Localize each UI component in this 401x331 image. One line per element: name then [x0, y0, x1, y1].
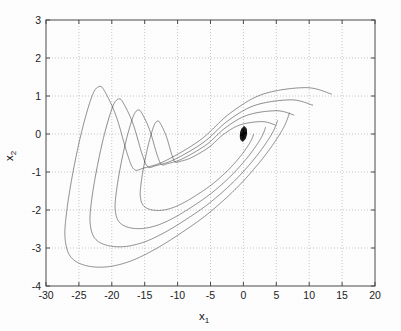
y-axis-label-subscript: 2 — [9, 150, 18, 155]
svg-text:x2: x2 — [3, 150, 18, 161]
x-tick-label: -5 — [206, 289, 215, 301]
x-tick-label: -10 — [170, 289, 185, 301]
x-tick-label: 5 — [273, 289, 279, 301]
y-tick-label: -3 — [32, 242, 41, 254]
x-tick-label: -25 — [71, 289, 86, 301]
x-tick-label: 0 — [240, 289, 246, 301]
x-tick-label: 15 — [336, 289, 348, 301]
y-tick-label: -2 — [32, 204, 41, 216]
x-axis-label: x1 — [199, 310, 210, 325]
tick-labels: -30-25-20-15-10-5051015203210-1-2-3-4 — [32, 14, 381, 301]
y-tick-label: 2 — [35, 52, 41, 64]
x-tick-label: -20 — [104, 289, 119, 301]
y-axis-label: x2 — [3, 150, 18, 161]
x-tick-label: 20 — [369, 289, 381, 301]
y-tick-label: 1 — [35, 90, 41, 102]
transient-inner-loop — [90, 99, 313, 247]
x-tick-label: -15 — [137, 289, 152, 301]
transient-inner-loop — [115, 110, 294, 229]
grid-lines — [46, 20, 375, 286]
x-tick-label: 10 — [303, 289, 315, 301]
x-axis-label-subscript: 1 — [205, 316, 210, 325]
trajectory-group — [65, 86, 332, 267]
y-tick-label: -4 — [32, 280, 41, 292]
y-tick-label: 3 — [35, 14, 41, 26]
y-tick-label: -1 — [32, 166, 41, 178]
figure-canvas: -30-25-20-15-10-5051015203210-1-2-3-4 x1… — [0, 0, 401, 331]
transient-trajectory — [65, 86, 332, 267]
svg-text:x1: x1 — [199, 310, 210, 325]
y-tick-label: 0 — [35, 128, 41, 140]
phase-portrait-plot: -30-25-20-15-10-5051015203210-1-2-3-4 x1… — [0, 0, 401, 331]
